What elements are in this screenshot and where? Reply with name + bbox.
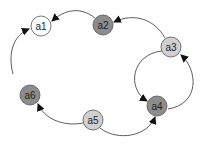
edge-a3-a2: [114, 18, 165, 38]
node-a5: a5: [83, 110, 103, 130]
edge-a6-a1: [11, 29, 29, 74]
svg-text:a2: a2: [97, 20, 109, 31]
edge-a5-a6: [38, 104, 83, 124]
svg-text:a3: a3: [165, 42, 177, 53]
node-a6: a6: [20, 85, 40, 105]
edge-a3-a4: [135, 51, 162, 101]
svg-text:a4: a4: [151, 101, 163, 112]
edge-a2-a1: [52, 11, 95, 21]
node-a3: a3: [161, 37, 181, 57]
svg-text:a6: a6: [24, 90, 36, 101]
svg-text:a1: a1: [35, 21, 47, 32]
edge-a4-a3: [168, 55, 193, 109]
node-a1: a1: [31, 16, 51, 36]
node-a4: a4: [147, 96, 167, 116]
graph-diagram: a1 a2 a3 a4 a5 a6: [0, 0, 208, 148]
edge-a5-a4: [100, 117, 155, 136]
svg-text:a5: a5: [87, 115, 99, 126]
node-a2: a2: [93, 15, 113, 35]
